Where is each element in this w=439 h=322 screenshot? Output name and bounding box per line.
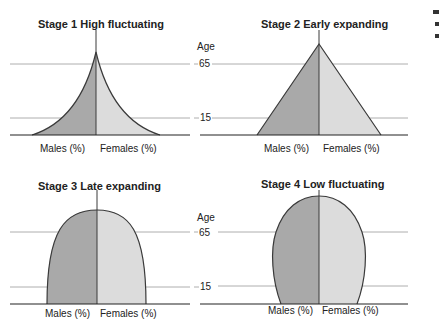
cropped-text-fragment — [435, 34, 439, 38]
age-tick-65-top: 65 — [198, 58, 211, 69]
age-tick-65-bottom: 65 — [198, 227, 211, 238]
cropped-text-fragment — [435, 22, 439, 26]
labels-layer: Stage 1 High fluctuating Stage 2 Early e… — [0, 0, 439, 322]
stage1-females-label: Females (%) — [100, 143, 157, 154]
stage2-females-label: Females (%) — [323, 143, 380, 154]
age-tick-15-top: 15 — [199, 112, 212, 123]
stage3-title: Stage 3 Late expanding — [38, 180, 161, 192]
stage2-males-label: Males (%) — [264, 143, 309, 154]
age-label-top: Age — [197, 41, 215, 52]
stage4-title: Stage 4 Low fluctuating — [261, 178, 384, 190]
cropped-text-fragment — [433, 10, 439, 14]
stage4-males-label: Males (%) — [268, 305, 313, 316]
stage3-females-label: Females (%) — [100, 308, 157, 319]
stage2-title: Stage 2 Early expanding — [261, 18, 388, 30]
age-tick-15-bottom: 15 — [199, 281, 212, 292]
stage3-males-label: Males (%) — [45, 308, 90, 319]
stage4-females-label: Females (%) — [322, 305, 379, 316]
stage1-males-label: Males (%) — [40, 143, 85, 154]
age-label-bottom: Age — [197, 212, 215, 223]
stage1-title: Stage 1 High fluctuating — [38, 18, 164, 30]
